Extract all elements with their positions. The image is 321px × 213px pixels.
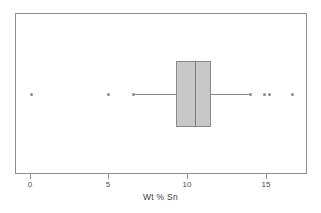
- x-tick-mark-15: [266, 174, 267, 179]
- x-tick-mark-0: [30, 174, 31, 179]
- x-tick-mark-5: [108, 174, 109, 179]
- x-tick-label-15: 15: [262, 180, 271, 190]
- x-axis-label: Wt % Sn: [0, 192, 321, 202]
- plot-frame: [15, 13, 307, 174]
- x-tick-label-5: 5: [106, 180, 110, 190]
- x-tick-label-0: 0: [28, 180, 32, 190]
- x-tick-label-10: 10: [183, 180, 192, 190]
- x-tick-mark-10: [187, 174, 188, 179]
- boxplot-figure: 051015 Wt % Sn: [0, 0, 321, 213]
